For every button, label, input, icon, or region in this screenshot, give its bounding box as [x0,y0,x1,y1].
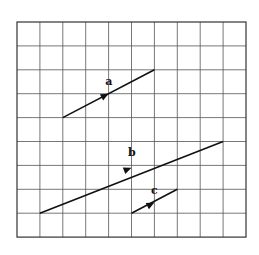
arrowhead-icon [123,167,132,174]
grid [17,22,246,237]
vector-grid-diagram: abc [0,0,259,255]
vector-label: b [128,146,136,159]
vector-label: c [151,184,158,197]
vector-label: a [105,75,112,88]
